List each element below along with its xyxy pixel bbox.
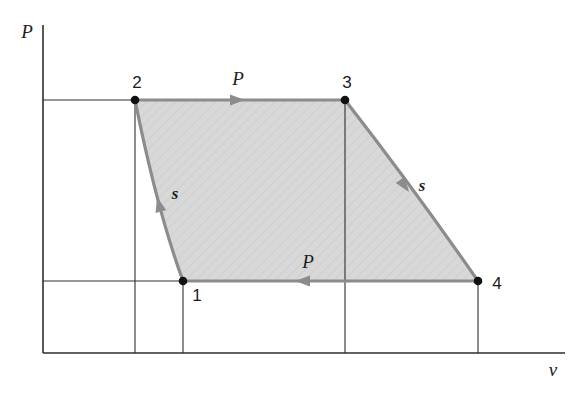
process-2-3-label: P (232, 69, 244, 88)
state-point-2 (131, 96, 140, 105)
process-3-4-label: s (419, 177, 426, 194)
pv-diagram-figure: P v 2 3 1 4 P s P s (0, 0, 586, 397)
state-label-3: 3 (342, 74, 351, 91)
state-label-1: 1 (192, 287, 201, 304)
x-axis-label: v (549, 360, 557, 379)
diagram-canvas (0, 0, 586, 397)
state-label-2: 2 (132, 74, 141, 91)
state-point-1 (179, 277, 188, 286)
process-4-1-label: P (302, 252, 314, 271)
state-point-3 (341, 96, 350, 105)
process-1-2-label: s (172, 185, 179, 202)
y-axis-label: P (21, 22, 33, 41)
state-point-4 (474, 277, 483, 286)
state-label-4: 4 (492, 275, 501, 292)
